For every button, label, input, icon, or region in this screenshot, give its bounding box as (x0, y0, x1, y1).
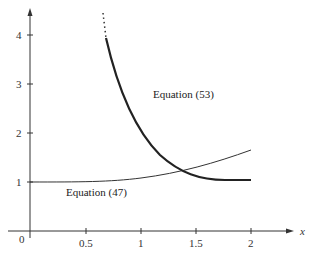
x-tick-label: 1 (138, 237, 144, 249)
x-tick-label: 2 (248, 237, 254, 249)
series-equation-53 (106, 38, 251, 180)
chart: x 0 1 2 3 4 0.5 1 1.5 2 Equation (53) Eq… (0, 0, 314, 260)
x-tick-label: 1.5 (189, 237, 203, 249)
y-tick-label: 4 (16, 29, 22, 41)
y-tick-label: 2 (16, 127, 22, 139)
series-equation-53-dotted (103, 13, 106, 38)
x-axis-label: x (299, 225, 305, 237)
y-tick-label: 3 (16, 78, 22, 90)
x-tick-label: 0.5 (79, 237, 93, 249)
label-equation-53: Equation (53) (153, 88, 214, 101)
x-axis-arrow-icon (286, 229, 294, 234)
origin-label: 0 (19, 233, 25, 245)
label-equation-47: Equation (47) (66, 186, 127, 199)
series-equation-47 (30, 150, 251, 182)
y-tick-label: 1 (16, 176, 22, 188)
y-axis-arrow-icon (28, 8, 33, 16)
